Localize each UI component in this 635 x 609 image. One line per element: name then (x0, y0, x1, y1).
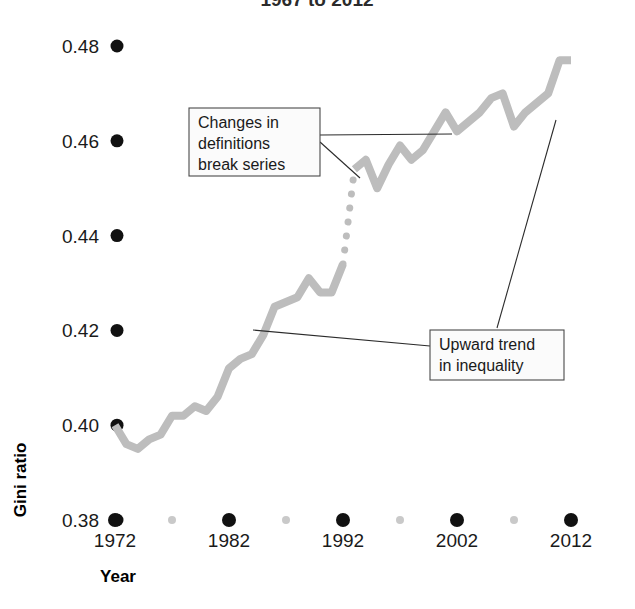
chart-title: 1967 to 2012 (260, 0, 373, 10)
annotation-upward-trend-note: Upward trendin inequality (430, 330, 564, 380)
annotation-text-line: Changes in (198, 114, 279, 131)
x-axis-minor-tick-dot (510, 516, 518, 524)
y-axis-title: Gini ratio (11, 443, 30, 518)
annotation-text-line: Upward trend (439, 336, 535, 353)
x-axis-tick-dot (564, 513, 578, 527)
y-axis-tick-dot (111, 229, 124, 242)
x-axis-tick-label: 2012 (550, 530, 592, 551)
x-axis-minor-tick-dot (168, 516, 176, 524)
x-axis-tick-dot (450, 513, 464, 527)
leader-line-upward-trend-up (497, 120, 556, 328)
x-axis-tick-label: 1992 (322, 530, 364, 551)
y-axis-tick-label: 0.38 (62, 510, 99, 531)
series-line (115, 264, 343, 449)
x-axis-tick-dot (222, 513, 236, 527)
annotations-group: Changes indefinitionsbreak seriesUpward … (189, 108, 564, 380)
annotation-text-line: break series (198, 156, 285, 173)
y-axis-tick-dot (111, 324, 124, 337)
y-axis-tick-label: 0.44 (62, 226, 99, 247)
leader-line-series-break (320, 142, 360, 178)
annotation-text-line: in inequality (439, 357, 524, 374)
y-axis-tick-dot (111, 134, 124, 147)
x-axis: 19721982199220022012 (94, 513, 592, 551)
y-axis-tick-label: 0.48 (62, 36, 99, 57)
y-axis-tick-label: 0.40 (62, 415, 99, 436)
x-axis-tick-dot (336, 513, 350, 527)
x-axis-tick-label: 1982 (208, 530, 250, 551)
x-axis-tick-label: 1972 (94, 530, 136, 551)
y-axis-tick-dot (111, 40, 124, 53)
series-line (354, 60, 571, 188)
x-axis-tick-dot (108, 513, 122, 527)
annotation-series-break-note: Changes indefinitionsbreak series (189, 108, 320, 176)
y-axis-tick-label: 0.42 (62, 320, 99, 341)
y-axis: 0.380.400.420.440.460.48 (62, 36, 123, 531)
series-line-dotted (343, 169, 354, 264)
x-axis-tick-label: 2002 (436, 530, 478, 551)
data-series-group (115, 60, 571, 449)
chart-canvas: 1967 to 2012 0.380.400.420.440.460.48 19… (0, 0, 635, 609)
x-axis-minor-tick-dot (396, 516, 404, 524)
gini-ratio-chart: 1967 to 2012 0.380.400.420.440.460.48 19… (0, 0, 635, 609)
annotation-text-line: definitions (198, 135, 270, 152)
leader-line-upward-trend-left (253, 330, 430, 346)
y-axis-tick-label: 0.46 (62, 131, 99, 152)
x-axis-title: Year (100, 567, 136, 586)
x-axis-minor-tick-dot (282, 516, 290, 524)
